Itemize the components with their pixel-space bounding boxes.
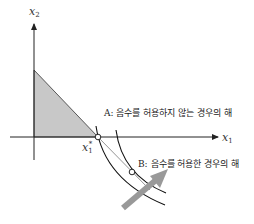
diagram-canvas: x2 x1 x1* A: 음수를 허용하지 않는 경우의 해 B: 음수를 허용… (0, 0, 254, 224)
improvement-direction-arrow (123, 169, 168, 208)
point-a-label: A: 음수를 허용하지 않는 경우의 해 (103, 107, 232, 118)
x-axis-label: x1 (222, 131, 233, 145)
point-a-marker (95, 134, 101, 140)
y-axis-label: x2 (29, 5, 40, 19)
feasible-region (34, 70, 98, 137)
point-b-marker (129, 169, 135, 175)
point-b-label: B: 음수를 허용한 경우의 해 (138, 158, 239, 169)
x1-star-label: x1* (82, 140, 93, 155)
